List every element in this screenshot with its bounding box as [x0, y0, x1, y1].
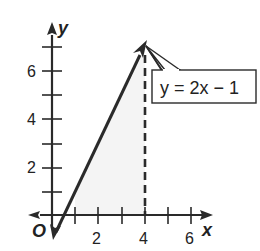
- x-tick-label-4: 4: [139, 230, 148, 247]
- y-axis-arrow-icon: [47, 22, 57, 35]
- y-axis-label: y: [57, 18, 69, 38]
- shaded-region: [75, 50, 145, 215]
- y-axis: [42, 22, 62, 228]
- y-tick-label-4: 4: [27, 111, 36, 128]
- coordinate-graph: y = 2x − 1 2 4 6 2 4 6 x y O: [0, 0, 260, 251]
- x-tick-label-6: 6: [185, 230, 194, 247]
- origin-label: O: [32, 221, 46, 241]
- x-axis-label: x: [201, 220, 213, 240]
- y-tick-label-6: 6: [27, 63, 36, 80]
- y-tick-label-2: 2: [27, 159, 36, 176]
- x-tick-label-2: 2: [92, 230, 101, 247]
- equation-label: y = 2x − 1: [160, 78, 239, 98]
- equation-callout: y = 2x − 1: [146, 46, 256, 103]
- x-axis-left-arrow-icon: [28, 211, 40, 219]
